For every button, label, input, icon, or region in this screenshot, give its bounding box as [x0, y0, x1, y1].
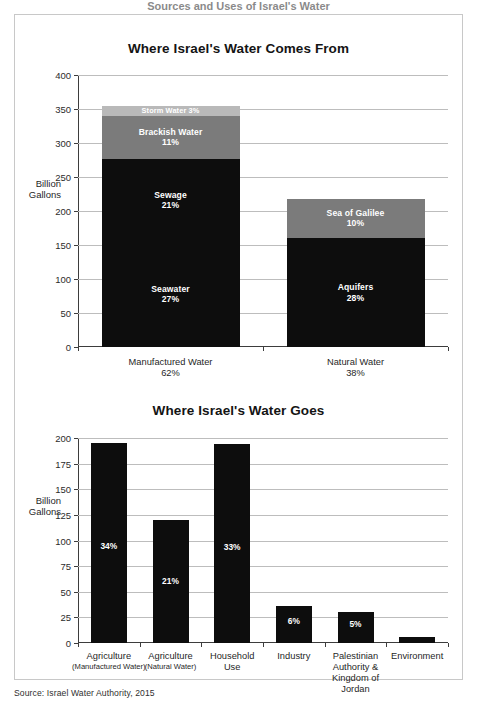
gridline: [78, 515, 448, 516]
x-tick-mark: [140, 643, 141, 647]
bar-segment-label: Brackish Water11%: [139, 127, 203, 148]
bar: 34%: [91, 443, 127, 643]
y-tick-label: 350: [55, 104, 71, 115]
y-tick-mark: [74, 143, 78, 144]
y-tick-mark: [74, 592, 78, 593]
y-tick-mark: [74, 177, 78, 178]
y-tick-mark: [74, 566, 78, 567]
chart-1-title: Where Israel's Water Comes From: [15, 41, 462, 56]
y-tick-label: 200: [55, 206, 71, 217]
x-tick-mark: [78, 643, 79, 647]
gridline: [78, 464, 448, 465]
y-tick-mark: [74, 464, 78, 465]
y-tick-label: 100: [55, 274, 71, 285]
bar-value-label: 33%: [214, 542, 250, 552]
bar-segment-label: Seawater27%: [151, 284, 190, 305]
bar-segment-seawater: Seawater27%: [102, 242, 240, 347]
x-tick-mark: [263, 347, 264, 351]
bar-segment-brackish-water: Brackish Water11%: [102, 116, 240, 159]
y-tick-label: 200: [55, 433, 71, 444]
y-tick-label: 175: [55, 458, 71, 469]
page-headline: Sources and Uses of Israel's Water: [0, 0, 477, 12]
x-category-label: Environment: [380, 651, 454, 662]
bar-segment-storm-water: Storm Water 3%: [102, 106, 240, 116]
bar-segment-aquifers: Aquifers28%: [287, 238, 425, 347]
y-tick-mark: [74, 489, 78, 490]
chart-1-plot-area: 050100150200250300350400Seawater27%Sewag…: [78, 75, 448, 347]
y-tick-mark: [74, 617, 78, 618]
gridline: [78, 438, 448, 439]
y-tick-label: 0: [66, 342, 71, 353]
y-tick-mark: [74, 438, 78, 439]
chart-2-title: Where Israel's Water Goes: [15, 403, 462, 418]
bar: 5%: [338, 612, 374, 643]
x-tick-mark: [448, 643, 449, 647]
gridline: [78, 75, 448, 76]
stacked-bar: Seawater27%Sewage21%Brackish Water11%Sto…: [102, 106, 240, 347]
y-tick-label: 100: [55, 535, 71, 546]
source-note: Source: Israel Water Authority, 2015: [14, 688, 155, 698]
y-tick-label: 125: [55, 509, 71, 520]
y-tick-label: 25: [60, 612, 71, 623]
y-tick-mark: [74, 109, 78, 110]
gridline: [78, 592, 448, 593]
gridline: [78, 566, 448, 567]
y-tick-label: 150: [55, 484, 71, 495]
x-category-label: Manufactured Water62%: [78, 357, 263, 379]
y-tick-mark: [74, 279, 78, 280]
bar-value-label: 34%: [91, 541, 127, 551]
bar: 6%: [276, 606, 312, 643]
bar-segment-label: Storm Water 3%: [142, 106, 200, 115]
gridline: [78, 541, 448, 542]
bar-value-label: 21%: [153, 576, 189, 586]
x-tick-mark: [386, 643, 387, 647]
y-tick-label: 400: [55, 70, 71, 81]
x-tick-mark: [325, 643, 326, 647]
stacked-bar: Aquifers28%Sea of Galilee10%: [287, 199, 425, 347]
y-tick-label: 150: [55, 240, 71, 251]
chart-water-uses: Where Israel's Water Goes Billion Gallon…: [15, 381, 462, 681]
bar: 1%: [399, 637, 435, 643]
infographic-page: Sources and Uses of Israel's Water Where…: [0, 0, 477, 710]
bar: 33%: [214, 444, 250, 643]
bar-segment-label: Sea of Galilee10%: [327, 208, 385, 229]
y-tick-mark: [74, 541, 78, 542]
y-tick-mark: [74, 515, 78, 516]
y-tick-label: 75: [60, 561, 71, 572]
chart-water-sources: Where Israel's Water Comes From Billion …: [15, 15, 462, 375]
y-tick-label: 300: [55, 138, 71, 149]
bar-segment-label: Sewage21%: [154, 190, 187, 211]
x-tick-mark: [201, 643, 202, 647]
bar-value-label: 6%: [276, 616, 312, 626]
chart-2-plot-area: 025507510012515017520034%Agriculture(Man…: [78, 438, 448, 643]
y-tick-label: 0: [66, 638, 71, 649]
gridline: [78, 617, 448, 618]
x-tick-mark: [448, 347, 449, 351]
y-tick-mark: [74, 245, 78, 246]
x-tick-mark: [78, 347, 79, 351]
chart-card: Where Israel's Water Comes From Billion …: [14, 14, 463, 680]
x-tick-mark: [263, 643, 264, 647]
bar-segment-sewage: Sewage21%: [102, 159, 240, 242]
bar-segment-label: Aquifers28%: [338, 282, 374, 303]
y-tick-label: 250: [55, 172, 71, 183]
y-tick-mark: [74, 211, 78, 212]
y-tick-mark: [74, 313, 78, 314]
bar: 21%: [153, 520, 189, 643]
x-category-label: Natural Water38%: [263, 357, 448, 379]
y-tick-label: 50: [60, 586, 71, 597]
y-tick-mark: [74, 75, 78, 76]
bar-value-label: 5%: [338, 619, 374, 629]
bar-segment-sea-of-galilee: Sea of Galilee10%: [287, 199, 425, 238]
y-tick-label: 50: [60, 308, 71, 319]
gridline: [78, 489, 448, 490]
